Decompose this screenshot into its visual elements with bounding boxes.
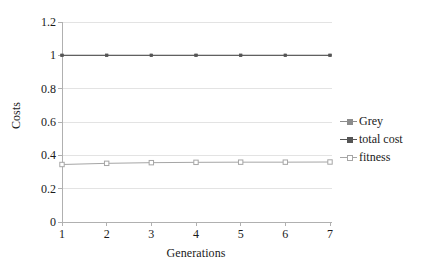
x-axis-tick-label: 4 (183, 228, 209, 240)
legend-label: fitness (359, 151, 390, 164)
legend-label: total cost (359, 133, 403, 146)
legend-marker-icon (347, 155, 353, 161)
x-axis-tick-label: 6 (272, 228, 298, 240)
legend-item[interactable]: fitness (340, 148, 422, 166)
x-axis-title: Generations (62, 246, 330, 261)
legend-swatch-icon (340, 116, 357, 126)
legend-label: Grey (359, 115, 383, 128)
x-axis-tick-label: 5 (228, 228, 254, 240)
x-axis-tick-label: 1 (49, 228, 75, 240)
legend-marker-icon (347, 137, 353, 143)
x-axis-tick-label: 3 (138, 228, 164, 240)
x-axis-tick-label: 2 (94, 228, 120, 240)
legend-item[interactable]: total cost (340, 130, 422, 148)
legend-swatch-icon (340, 134, 357, 144)
legend-swatch-icon (340, 152, 357, 162)
legend-marker-icon (347, 119, 353, 125)
chart-legend: Greytotal costfitness (340, 112, 422, 166)
y-axis-title: Costs (9, 86, 24, 146)
chart-figure: 00.20.40.60.811.2 1234567 Costs Generati… (0, 0, 422, 270)
legend-item[interactable]: Grey (340, 112, 422, 130)
x-axis-tick-label: 7 (317, 228, 343, 240)
